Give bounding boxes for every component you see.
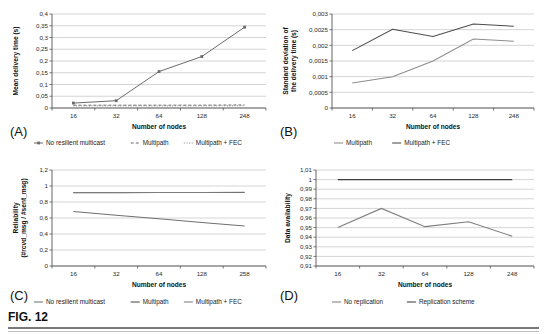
svg-text:248: 248 — [239, 112, 250, 119]
svg-text:Reliability: Reliability — [12, 202, 20, 233]
svg-text:(#rcvd_msg / #sent_msg): (#rcvd_msg / #sent_msg) — [20, 178, 28, 257]
svg-text:32: 32 — [113, 270, 120, 277]
svg-text:0,93: 0,93 — [300, 243, 313, 250]
svg-text:128: 128 — [197, 270, 208, 277]
chart-panel-d: 0,910,920,930,940,950,960,970,980,9911,0… — [276, 158, 542, 313]
svg-text:0,0025: 0,0025 — [309, 26, 328, 33]
svg-text:Number of nodes: Number of nodes — [132, 123, 187, 130]
svg-text:0,8: 0,8 — [39, 198, 48, 205]
svg-text:Replication scheme: Replication scheme — [419, 298, 475, 306]
svg-text:Multipath + FEC: Multipath + FEC — [404, 139, 450, 147]
svg-text:Data availability: Data availability — [284, 193, 292, 243]
svg-text:16: 16 — [349, 112, 356, 119]
caption-rule-thin — [8, 331, 539, 332]
svg-text:0,3: 0,3 — [39, 34, 48, 41]
svg-text:0,99: 0,99 — [300, 185, 313, 192]
caption-rule — [8, 327, 539, 329]
svg-text:128: 128 — [463, 270, 474, 277]
svg-text:248: 248 — [509, 112, 520, 119]
svg-text:64: 64 — [156, 112, 163, 119]
svg-text:32: 32 — [113, 112, 120, 119]
svg-text:No resilient multicast: No resilient multicast — [46, 139, 105, 146]
chart-panel-c: 00,20,40,60,811,2163264128258Number of n… — [6, 158, 274, 313]
svg-text:0,2: 0,2 — [39, 246, 48, 253]
svg-text:1,2: 1,2 — [39, 166, 48, 173]
svg-text:Multipath + FEC: Multipath + FEC — [196, 139, 242, 147]
svg-text:128: 128 — [197, 112, 208, 119]
svg-text:Multipath: Multipath — [143, 298, 169, 306]
svg-text:0,25: 0,25 — [36, 45, 49, 52]
svg-text:Multipath + FEC: Multipath + FEC — [196, 298, 242, 306]
svg-text:32: 32 — [378, 270, 385, 277]
svg-text:Standard deviation of: Standard deviation of — [282, 26, 289, 94]
svg-text:0,92: 0,92 — [300, 253, 313, 260]
svg-text:0: 0 — [325, 104, 329, 111]
svg-text:0,003: 0,003 — [313, 10, 329, 17]
svg-text:0,95: 0,95 — [300, 224, 313, 231]
figure-12: 00,050,10,150,20,250,30,350,416326412824… — [0, 0, 547, 334]
svg-text:258: 258 — [239, 270, 250, 277]
svg-text:0,15: 0,15 — [36, 69, 49, 76]
chart-panel-b: 00,00050,0010,00150,0020,00250,003163264… — [276, 4, 542, 154]
svg-text:0,98: 0,98 — [300, 195, 313, 202]
svg-text:248: 248 — [507, 270, 518, 277]
svg-text:Number of nodes: Number of nodes — [132, 281, 187, 288]
svg-text:Multipath: Multipath — [346, 139, 372, 147]
svg-text:0,91: 0,91 — [300, 262, 313, 269]
svg-text:0: 0 — [45, 262, 49, 269]
svg-text:0,4: 0,4 — [39, 10, 48, 17]
svg-text:the delivery time (s): the delivery time (s) — [290, 30, 298, 92]
panel-label-d: (D) — [280, 288, 298, 303]
svg-text:No resilient multicast: No resilient multicast — [46, 298, 105, 305]
svg-text:Mean delivery time (s): Mean delivery time (s) — [12, 27, 20, 96]
svg-text:16: 16 — [334, 270, 341, 277]
svg-text:1: 1 — [309, 176, 313, 183]
svg-text:64: 64 — [422, 270, 429, 277]
svg-text:16: 16 — [70, 270, 77, 277]
svg-text:64: 64 — [156, 270, 163, 277]
svg-text:32: 32 — [389, 112, 396, 119]
svg-text:0,96: 0,96 — [300, 214, 313, 221]
svg-text:1: 1 — [45, 182, 49, 189]
svg-text:0,0015: 0,0015 — [309, 57, 328, 64]
svg-text:16: 16 — [70, 112, 77, 119]
svg-text:0,97: 0,97 — [300, 205, 313, 212]
panel-label-c: (C) — [10, 288, 28, 303]
svg-text:0,002: 0,002 — [313, 42, 329, 49]
figure-caption: FIG. 12 — [8, 310, 48, 324]
svg-text:0,2: 0,2 — [39, 57, 48, 64]
svg-text:0,1: 0,1 — [39, 81, 48, 88]
svg-text:1,01: 1,01 — [300, 166, 313, 173]
svg-text:0,4: 0,4 — [39, 230, 48, 237]
svg-text:0,0005: 0,0005 — [309, 89, 328, 96]
svg-text:Number of nodes: Number of nodes — [398, 281, 453, 288]
svg-text:0,35: 0,35 — [36, 22, 49, 29]
svg-text:0,6: 0,6 — [39, 214, 48, 221]
svg-text:0,05: 0,05 — [36, 92, 49, 99]
svg-text:0,001: 0,001 — [313, 73, 329, 80]
svg-text:Multipath: Multipath — [143, 139, 169, 147]
svg-text:0: 0 — [45, 104, 49, 111]
svg-text:128: 128 — [468, 112, 479, 119]
panel-label-b: (B) — [280, 124, 297, 139]
svg-text:0,94: 0,94 — [300, 233, 313, 240]
svg-text:Number of nodes: Number of nodes — [406, 123, 461, 130]
chart-panel-a: 00,050,10,150,20,250,30,350,416326412824… — [6, 4, 274, 154]
svg-text:64: 64 — [430, 112, 437, 119]
panel-label-a: (A) — [10, 124, 27, 139]
svg-text:No replication: No replication — [344, 298, 384, 306]
